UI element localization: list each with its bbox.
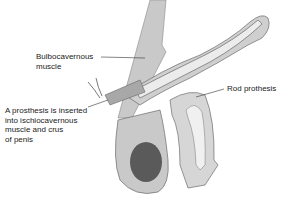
label-prosthesis-insertion: A prosthesis is inserted into ischiocave… xyxy=(5,106,87,144)
testis xyxy=(130,142,162,182)
label-bulbocavernous-muscle: Bulbocavernous muscle xyxy=(36,52,93,71)
label-rod-prosthesis: Rod prothesis xyxy=(227,84,276,94)
anatomical-illustration xyxy=(0,0,285,203)
nerve-branch xyxy=(88,78,102,98)
leader-insertion xyxy=(88,100,108,107)
